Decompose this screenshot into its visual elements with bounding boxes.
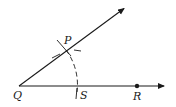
label-s: S (80, 89, 88, 102)
ray-qp (19, 9, 124, 87)
label-q: Q (13, 89, 22, 102)
angle-construction-diagram: P Q S R (0, 0, 176, 107)
label-r: R (132, 90, 141, 103)
label-p: P (63, 34, 72, 47)
arc-mark-right (74, 50, 81, 51)
point-r-dot (135, 84, 139, 88)
arc-mark-s (76, 88, 77, 99)
